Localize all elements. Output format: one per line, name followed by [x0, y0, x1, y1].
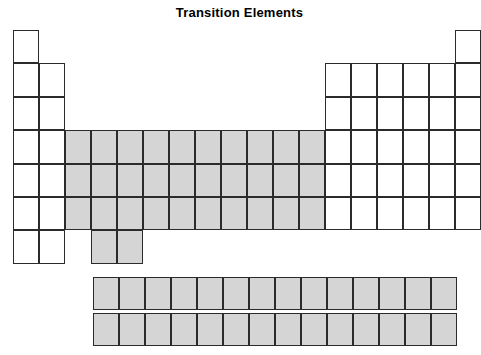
element-cell[interactable]: [325, 63, 351, 96]
element-cell[interactable]: [13, 63, 39, 96]
fblock-cell[interactable]: [405, 277, 431, 310]
fblock-cell[interactable]: [93, 313, 119, 346]
element-cell[interactable]: [455, 130, 481, 163]
element-cell[interactable]: [91, 197, 117, 230]
element-cell[interactable]: [351, 164, 377, 197]
element-cell[interactable]: [247, 164, 273, 197]
fblock-cell[interactable]: [197, 313, 223, 346]
element-cell[interactable]: [429, 164, 455, 197]
element-cell[interactable]: [221, 197, 247, 230]
element-cell[interactable]: [143, 130, 169, 163]
element-cell[interactable]: [429, 130, 455, 163]
element-cell[interactable]: [299, 197, 325, 230]
element-cell[interactable]: [403, 63, 429, 96]
element-cell[interactable]: [377, 130, 403, 163]
element-cell[interactable]: [429, 197, 455, 230]
element-cell[interactable]: [429, 97, 455, 130]
fblock-cell[interactable]: [223, 313, 249, 346]
fblock-cell[interactable]: [327, 277, 353, 310]
element-cell[interactable]: [13, 197, 39, 230]
element-cell[interactable]: [455, 164, 481, 197]
element-cell[interactable]: [403, 164, 429, 197]
element-cell[interactable]: [351, 197, 377, 230]
fblock-cell[interactable]: [353, 277, 379, 310]
fblock-cell[interactable]: [145, 313, 171, 346]
fblock-cell[interactable]: [431, 313, 457, 346]
fblock-cell[interactable]: [379, 277, 405, 310]
element-cell[interactable]: [39, 164, 65, 197]
element-cell[interactable]: [195, 197, 221, 230]
element-cell[interactable]: [91, 130, 117, 163]
fblock-cell[interactable]: [93, 277, 119, 310]
element-cell[interactable]: [91, 164, 117, 197]
fblock-cell[interactable]: [327, 313, 353, 346]
element-cell[interactable]: [65, 164, 91, 197]
element-cell[interactable]: [117, 130, 143, 163]
element-cell[interactable]: [13, 164, 39, 197]
fblock-cell[interactable]: [171, 277, 197, 310]
element-cell[interactable]: [403, 97, 429, 130]
fblock-cell[interactable]: [119, 313, 145, 346]
element-cell[interactable]: [377, 63, 403, 96]
fblock-cell[interactable]: [119, 277, 145, 310]
fblock-cell[interactable]: [301, 277, 327, 310]
element-cell[interactable]: [195, 164, 221, 197]
element-cell[interactable]: [325, 197, 351, 230]
element-cell[interactable]: [377, 197, 403, 230]
element-cell[interactable]: [325, 164, 351, 197]
element-cell[interactable]: [39, 97, 65, 130]
element-cell[interactable]: [351, 97, 377, 130]
fblock-cell[interactable]: [405, 313, 431, 346]
element-cell[interactable]: [39, 230, 65, 263]
element-cell[interactable]: [455, 197, 481, 230]
element-cell[interactable]: [247, 130, 273, 163]
element-cell[interactable]: [403, 197, 429, 230]
element-cell[interactable]: [39, 130, 65, 163]
element-cell[interactable]: [455, 97, 481, 130]
element-cell[interactable]: [403, 130, 429, 163]
element-cell[interactable]: [169, 164, 195, 197]
element-cell[interactable]: [13, 230, 39, 263]
element-cell[interactable]: [325, 97, 351, 130]
fblock-cell[interactable]: [197, 277, 223, 310]
fblock-cell[interactable]: [301, 313, 327, 346]
element-cell[interactable]: [13, 30, 39, 63]
fblock-cell[interactable]: [379, 313, 405, 346]
element-cell[interactable]: [65, 130, 91, 163]
fblock-cell[interactable]: [223, 277, 249, 310]
fblock-cell[interactable]: [249, 277, 275, 310]
element-cell[interactable]: [221, 130, 247, 163]
fblock-cell[interactable]: [145, 277, 171, 310]
element-cell[interactable]: [351, 63, 377, 96]
element-cell[interactable]: [273, 197, 299, 230]
element-cell[interactable]: [299, 164, 325, 197]
element-cell[interactable]: [455, 63, 481, 96]
element-cell[interactable]: [65, 197, 91, 230]
element-cell[interactable]: [273, 130, 299, 163]
fblock-cell[interactable]: [249, 313, 275, 346]
fblock-cell[interactable]: [353, 313, 379, 346]
element-cell[interactable]: [91, 230, 117, 263]
element-cell[interactable]: [13, 97, 39, 130]
element-cell[interactable]: [13, 130, 39, 163]
element-cell[interactable]: [39, 63, 65, 96]
element-cell[interactable]: [377, 97, 403, 130]
fblock-cell[interactable]: [275, 313, 301, 346]
fblock-cell[interactable]: [275, 277, 301, 310]
element-cell[interactable]: [455, 30, 481, 63]
element-cell[interactable]: [273, 164, 299, 197]
element-cell[interactable]: [429, 63, 455, 96]
element-cell[interactable]: [377, 164, 403, 197]
element-cell[interactable]: [143, 164, 169, 197]
element-cell[interactable]: [325, 130, 351, 163]
element-cell[interactable]: [169, 130, 195, 163]
element-cell[interactable]: [117, 164, 143, 197]
element-cell[interactable]: [117, 197, 143, 230]
element-cell[interactable]: [299, 130, 325, 163]
fblock-cell[interactable]: [431, 277, 457, 310]
element-cell[interactable]: [221, 164, 247, 197]
element-cell[interactable]: [143, 197, 169, 230]
element-cell[interactable]: [39, 197, 65, 230]
element-cell[interactable]: [195, 130, 221, 163]
element-cell[interactable]: [351, 130, 377, 163]
